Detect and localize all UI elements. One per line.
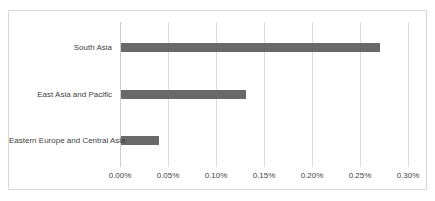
x-tick-label-1: 0.05% <box>148 171 188 180</box>
x-tick-label-6: 0.30% <box>388 171 428 180</box>
x-tick-label-4: 0.20% <box>292 171 332 180</box>
chart-frame: South AsiaEast Asia and PacificEastern E… <box>8 10 427 190</box>
chart-canvas: South AsiaEast Asia and PacificEastern E… <box>0 0 435 201</box>
gridline-6 <box>408 22 409 167</box>
category-label-south-asia: South Asia <box>9 42 112 53</box>
bar-eastern-europe-and-central-asia <box>121 136 159 145</box>
bar-east-asia-and-pacific <box>121 90 246 99</box>
x-tick-label-2: 0.10% <box>196 171 236 180</box>
x-tick-label-5: 0.25% <box>340 171 380 180</box>
x-tick-label-3: 0.15% <box>244 171 284 180</box>
category-label-eastern-europe-and-central-asia: Eastern Europe and Central Asia <box>9 135 112 146</box>
x-tick-label-0: 0.00% <box>100 171 140 180</box>
bar-south-asia <box>121 43 380 52</box>
category-label-east-asia-and-pacific: East Asia and Pacific <box>9 89 112 100</box>
